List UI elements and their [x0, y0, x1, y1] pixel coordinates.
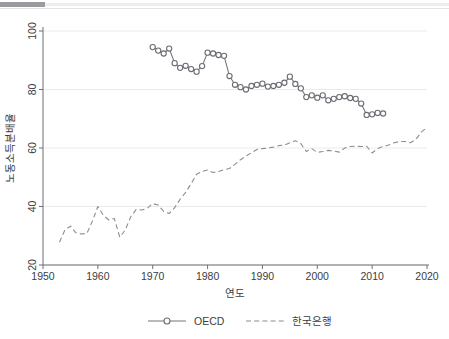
legend-label-bok: 한국은행 [292, 315, 332, 327]
series-line-oecd [153, 47, 383, 115]
svg-text:40: 40 [26, 201, 38, 213]
svg-text:100: 100 [26, 22, 38, 40]
rule-accent [0, 2, 45, 7]
svg-text:1950: 1950 [31, 270, 55, 282]
svg-text:2020: 2020 [415, 270, 439, 282]
chart-legend: OECD 한국은행 [148, 315, 332, 327]
x-axis-ticks: 19501960197019801990200020102020 [31, 265, 439, 282]
svg-text:1960: 1960 [86, 270, 110, 282]
rule-track [0, 3, 449, 6]
svg-text:60: 60 [26, 142, 38, 154]
y-axis-ticks: 20406080100 [26, 22, 43, 271]
series-markers-oecd [150, 44, 386, 117]
svg-text:2010: 2010 [360, 270, 384, 282]
svg-text:2000: 2000 [306, 270, 330, 282]
svg-text:1970: 1970 [141, 270, 165, 282]
svg-text:1990: 1990 [251, 270, 275, 282]
svg-text:1980: 1980 [196, 270, 220, 282]
y-axis-title: 노동소득분배율 [4, 113, 16, 183]
legend-label-oecd: OECD [194, 315, 225, 327]
chart-container: 20406080100 1950196019701980199020002010… [0, 9, 449, 339]
line-chart: 20406080100 1950196019701980199020002010… [0, 9, 449, 339]
series-line-bok [59, 128, 427, 243]
gridlines [43, 31, 427, 265]
svg-text:80: 80 [26, 84, 38, 96]
legend-marker-oecd-circle [164, 318, 170, 324]
x-axis-title: 연도 [225, 287, 245, 299]
top-rule-bar [0, 0, 449, 9]
